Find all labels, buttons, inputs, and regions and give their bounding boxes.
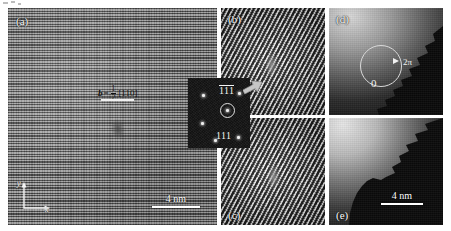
dislocation-core (110, 117, 127, 141)
panel-label-d: (d) (336, 14, 349, 25)
pointer-arrow-icon (243, 80, 265, 96)
panel-b-defect-core (265, 52, 278, 78)
scalebar-line-a (152, 206, 200, 209)
burgers-direction: [110] (118, 89, 137, 98)
axis-indicator: y x (18, 181, 52, 215)
paper-speck (11, 1, 15, 3)
fft-label-111-bar: 111 (219, 86, 234, 96)
scalebar-label-e: 4 nm (381, 190, 423, 202)
figure-root: (a) b = 1 2 [110] y x 4 nm (b) (c) (0, 0, 451, 231)
paper-speck (18, 3, 21, 5)
phase-end-label: 2π (403, 58, 412, 67)
fft-spot (237, 136, 240, 139)
panel-label-c: (c) (228, 210, 240, 221)
burgers-equals: = (104, 89, 109, 98)
burgers-vector-bar (101, 99, 134, 101)
diffractogram-inset: 111 111 (188, 78, 250, 148)
panel-c-defect-core (267, 164, 280, 190)
burgers-symbol: b (98, 89, 103, 98)
axis-label-x: x (45, 205, 49, 214)
panel-label-a: (a) (16, 16, 28, 27)
scalebar-panel-a: 4 nm (152, 193, 200, 208)
scalebar-line-e (381, 203, 423, 206)
panel-label-b: (b) (228, 14, 241, 25)
phase-arrow-icon (393, 58, 399, 64)
axis-label-y: y (17, 179, 21, 188)
paper-speck (3, 2, 8, 4)
fft-spot (238, 92, 241, 95)
fft-spot (202, 94, 205, 97)
scalebar-panel-e: 4 nm (381, 190, 423, 205)
fft-spot (201, 122, 204, 125)
phase-loop-circle (360, 45, 402, 87)
panel-label-e: (e) (336, 210, 348, 221)
fft-label-111: 111 (216, 131, 231, 141)
scalebar-label-a: 4 nm (152, 193, 200, 205)
fft-selected-spot-circle (220, 103, 235, 118)
phase-start-label: 0 (371, 78, 377, 89)
